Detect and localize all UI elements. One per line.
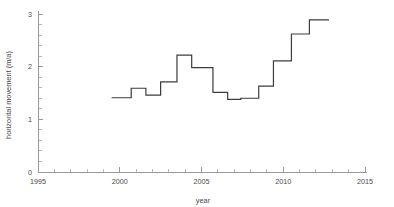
y-axis-title: horizontal movement (m/a) bbox=[4, 51, 13, 139]
x-tick-label: 2010 bbox=[275, 177, 291, 186]
y-tick-label: 3 bbox=[28, 10, 32, 19]
y-tick-label: 0 bbox=[28, 168, 32, 177]
x-axis-tick-labels: 19952000200520102015 bbox=[30, 177, 373, 186]
y-tick-label: 1 bbox=[28, 115, 32, 124]
step-chart: 19952000200520102015 0123 year horizonta… bbox=[0, 0, 394, 207]
y-axis-minor-ticks bbox=[38, 14, 42, 172]
x-tick-label: 2015 bbox=[357, 177, 373, 186]
y-axis-major-ticks bbox=[38, 14, 43, 172]
x-axis-title: year bbox=[196, 196, 211, 205]
data-series-line bbox=[112, 20, 329, 100]
chart-plot-area: 19952000200520102015 0123 year horizonta… bbox=[0, 0, 394, 207]
x-tick-label: 2005 bbox=[194, 177, 210, 186]
x-tick-label: 1995 bbox=[30, 177, 46, 186]
y-tick-label: 2 bbox=[28, 62, 32, 71]
x-tick-label: 2000 bbox=[112, 177, 128, 186]
y-axis-tick-labels: 0123 bbox=[28, 10, 32, 177]
